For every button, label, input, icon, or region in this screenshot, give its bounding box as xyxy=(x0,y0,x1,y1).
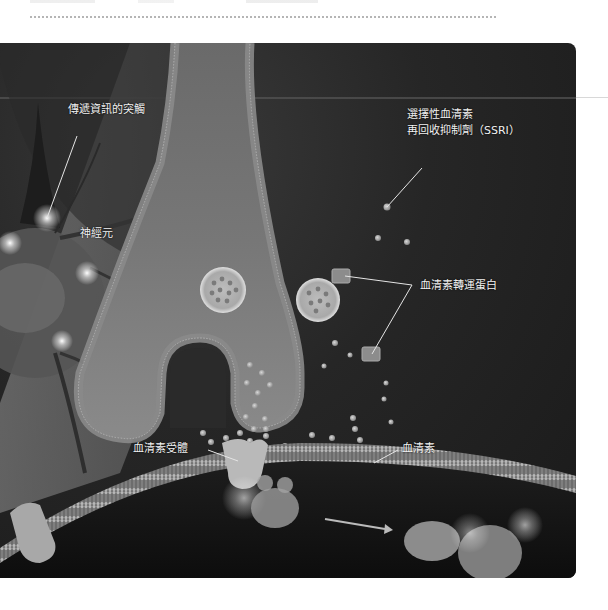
label-ssri-line2: 再回收抑制劑（SSRI） xyxy=(407,123,520,138)
label-serotonin-receptor: 血清素受體 xyxy=(133,441,188,456)
label-serotonin-transporter: 血清素轉運蛋白 xyxy=(420,278,497,293)
label-transmitting-synapse: 傳遞資訊的突觸 xyxy=(68,102,145,117)
label-serotonin: 血清素 xyxy=(402,441,435,456)
dotted-divider xyxy=(30,16,496,18)
margin-rule xyxy=(576,97,608,98)
header-text-remnant xyxy=(30,0,390,3)
label-neuron: 神經元 xyxy=(80,226,113,241)
label-ssri-line1: 選擇性血清素 xyxy=(407,107,473,122)
synapse-illustration: 傳遞資訊的突觸 神經元 選擇性血清素 再回收抑制劑（SSRI） 血清素轉運蛋白 … xyxy=(0,43,576,578)
